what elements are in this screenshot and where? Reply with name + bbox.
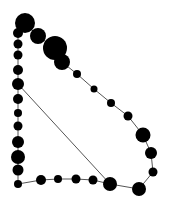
graph-node [149,168,158,177]
graph-node [72,175,81,184]
graph-edges [18,23,153,189]
graph-node [14,109,22,117]
graph-node [13,165,24,176]
graph-node [13,94,23,104]
graph-node [136,128,151,143]
graph-node [107,99,115,107]
graph-node [73,70,81,78]
graph-node [12,136,24,148]
graph-node [13,28,23,38]
graph-node [132,182,146,196]
graph-node [14,40,23,49]
graph-node [54,175,62,183]
graph-node [14,122,23,131]
graph-node [14,180,22,188]
graph-node [11,150,25,164]
graph-node [12,78,24,90]
graph-nodes [11,13,158,196]
graph-node [145,147,157,159]
graph-node [14,51,23,60]
graph-node [124,112,133,121]
graph-node [36,175,46,185]
graph-edge [18,84,110,184]
network-graph [0,0,171,210]
graph-node [103,177,117,191]
graph-node [30,28,46,44]
graph-node [91,86,98,93]
graph-node [89,176,98,185]
graph-node [13,65,23,75]
graph-node [43,36,67,60]
